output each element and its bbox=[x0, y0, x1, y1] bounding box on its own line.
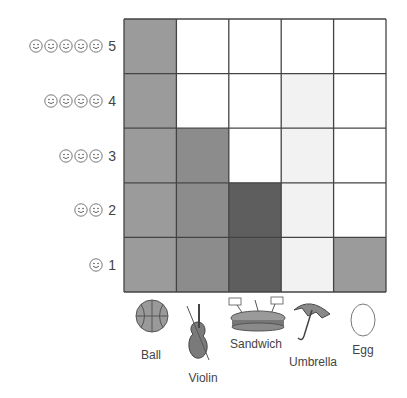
bar-cell-ball bbox=[124, 19, 176, 74]
bar-cell-umbrella bbox=[281, 74, 333, 129]
bar-cell-violin bbox=[176, 128, 228, 183]
bar-cell-egg bbox=[334, 237, 386, 292]
y-tick-label: 3 bbox=[0, 147, 116, 165]
x-tick-label: Violin bbox=[163, 371, 243, 385]
smiley-face-icon bbox=[89, 149, 103, 163]
bar-cell-ball bbox=[124, 128, 176, 183]
smiley-face-icon bbox=[44, 39, 58, 53]
smiley-face-icon bbox=[74, 94, 88, 108]
smiley-face-icon bbox=[74, 203, 88, 217]
bar-cell-umbrella bbox=[281, 237, 333, 292]
smiley-face-icon bbox=[74, 39, 88, 53]
y-tick-number: 3 bbox=[108, 148, 116, 164]
y-tick-number: 5 bbox=[108, 38, 116, 54]
bar-cell-ball bbox=[124, 74, 176, 129]
x-tick-label: Sandwich bbox=[216, 337, 296, 351]
smiley-face-icon bbox=[59, 39, 73, 53]
bar-cell-sandwich bbox=[229, 237, 281, 292]
y-tick-label: 5 bbox=[0, 37, 116, 55]
bar-cell-sandwich bbox=[229, 183, 281, 238]
violin-icon bbox=[183, 302, 213, 368]
egg-icon bbox=[348, 300, 378, 342]
smiley-face-icon bbox=[89, 258, 103, 272]
y-tick-label: 4 bbox=[0, 92, 116, 110]
ball-icon bbox=[134, 298, 170, 338]
y-tick-label: 2 bbox=[0, 201, 116, 219]
umbrella-icon bbox=[290, 298, 334, 348]
smiley-face-icon bbox=[89, 39, 103, 53]
y-tick-label: 1 bbox=[0, 256, 116, 274]
bar-cell-umbrella bbox=[281, 128, 333, 183]
x-tick-label: Ball bbox=[111, 348, 191, 362]
bar-cell-umbrella bbox=[281, 183, 333, 238]
sandwich-icon bbox=[227, 296, 289, 336]
y-tick-number: 2 bbox=[108, 202, 116, 218]
smiley-face-icon bbox=[59, 94, 73, 108]
smiley-face-icon bbox=[74, 149, 88, 163]
bar-cell-ball bbox=[124, 237, 176, 292]
smiley-face-icon bbox=[59, 149, 73, 163]
x-tick-label: Umbrella bbox=[273, 355, 353, 369]
smiley-face-icon bbox=[89, 94, 103, 108]
y-tick-number: 4 bbox=[108, 93, 116, 109]
smiley-face-icon bbox=[29, 39, 43, 53]
bar-cell-violin bbox=[176, 183, 228, 238]
smiley-face-icon bbox=[44, 94, 58, 108]
y-tick-number: 1 bbox=[108, 257, 116, 273]
x-tick-label: Egg bbox=[323, 343, 403, 357]
bar-cell-violin bbox=[176, 237, 228, 292]
smiley-face-icon bbox=[89, 203, 103, 217]
bar-cell-ball bbox=[124, 183, 176, 238]
